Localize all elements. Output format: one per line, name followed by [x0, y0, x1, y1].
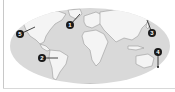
- world-map: [0, 0, 175, 92]
- marker-3[interactable]: 3: [148, 29, 156, 37]
- marker-5[interactable]: 5: [16, 30, 24, 38]
- marker-2[interactable]: 2: [38, 54, 46, 62]
- antarctica: [40, 84, 140, 90]
- endpoint-dot-4: [157, 66, 159, 68]
- marker-4[interactable]: 4: [154, 48, 162, 56]
- marker-1[interactable]: 1: [66, 21, 74, 29]
